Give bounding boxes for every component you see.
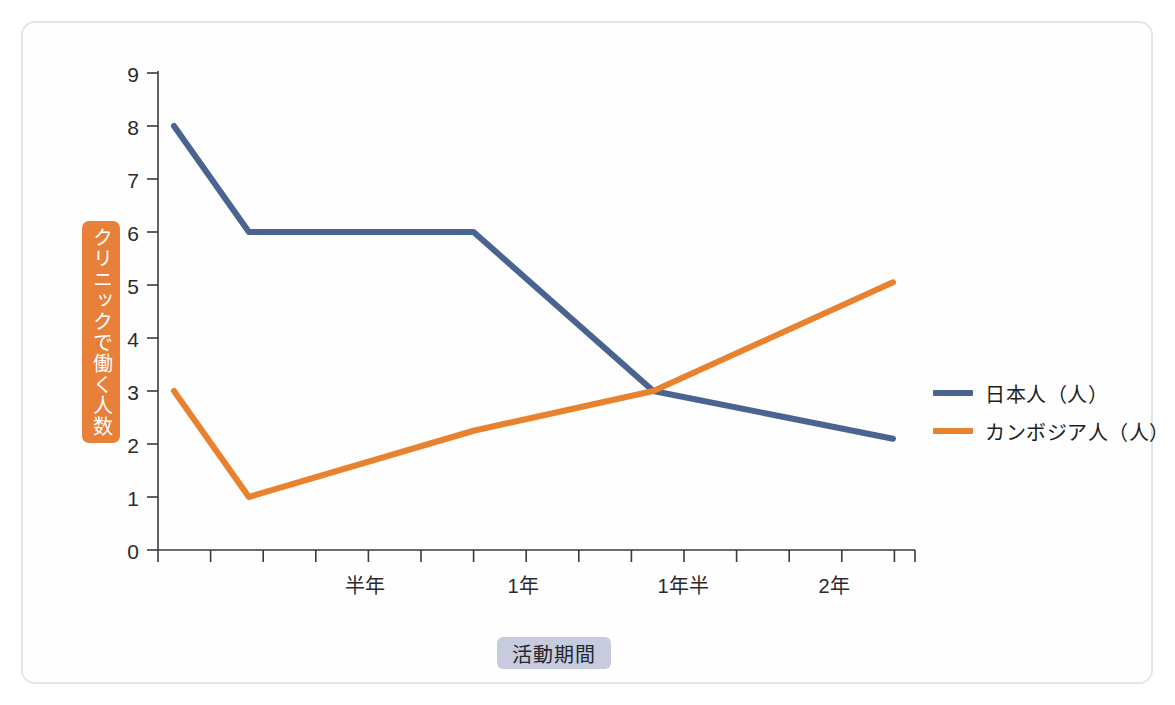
chart-card: 9 8 7 6 5 4 3 2 1 0 半年 1年 1年半 2年 クリニックで働… (21, 21, 1153, 684)
ytick-label-7: 7 (105, 170, 139, 191)
x-axis-ticks (158, 550, 915, 562)
line-chart-plot (23, 23, 1151, 682)
ytick-label-9: 9 (105, 64, 139, 85)
legend-swatch-japanese (933, 390, 973, 396)
ytick-label-1: 1 (105, 488, 139, 509)
screenshot-root: 9 8 7 6 5 4 3 2 1 0 半年 1年 1年半 2年 クリニックで働… (0, 0, 1175, 705)
x-axis-title-label: 活動期間 (512, 639, 596, 668)
legend-swatch-cambodian (933, 428, 973, 434)
xtick-label-half-year: 半年 (305, 576, 425, 596)
chart-plate: 9 8 7 6 5 4 3 2 1 0 半年 1年 1年半 2年 クリニックで働… (23, 23, 1151, 682)
legend-label-japanese: 日本人（人） (985, 379, 1108, 408)
y-axis-title-label: クリニックで働く人数 (91, 227, 111, 437)
xtick-label-one-and-half-year: 1年半 (613, 576, 753, 596)
legend-item-japanese: 日本人（人） (933, 374, 1175, 412)
x-axis-title: 活動期間 (497, 637, 611, 669)
xtick-label-one-year: 1年 (463, 576, 583, 596)
y-axis-ticks (147, 73, 158, 550)
y-axis-title: クリニックで働く人数 (82, 221, 120, 443)
ytick-label-0: 0 (105, 541, 139, 562)
legend-label-cambodian: カンボジア人（人） (985, 417, 1170, 446)
ytick-label-8: 8 (105, 117, 139, 138)
chart-legend: 日本人（人） カンボジア人（人） (933, 374, 1175, 450)
series-line-cambodian (174, 282, 893, 497)
legend-item-cambodian: カンボジア人（人） (933, 412, 1175, 450)
series-line-japanese (174, 126, 893, 439)
xtick-label-two-year: 2年 (774, 576, 894, 596)
